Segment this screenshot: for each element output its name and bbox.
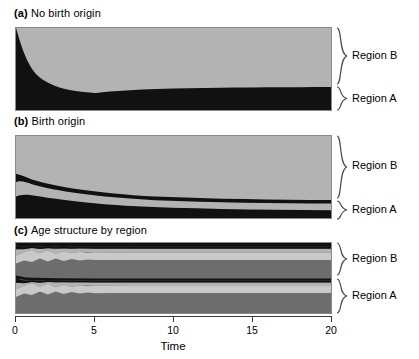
panel-b-title: (b) Birth origin bbox=[14, 115, 85, 127]
panel-a-caption: No birth origin bbox=[31, 7, 101, 19]
panel-a-label-region-b: Region B bbox=[352, 49, 397, 61]
panel-c-caption: Age structure by region bbox=[31, 224, 147, 236]
panel-c-brace-region-b bbox=[336, 242, 348, 276]
panel-b-areas bbox=[16, 136, 331, 218]
x-tick-10 bbox=[173, 317, 174, 322]
x-tick-label-10: 10 bbox=[167, 324, 179, 336]
x-tick-0 bbox=[15, 317, 16, 322]
x-tick-label-20: 20 bbox=[325, 324, 337, 336]
brace-shape bbox=[336, 86, 348, 111]
panel-c-areas bbox=[16, 243, 331, 313]
x-tick-label-5: 5 bbox=[91, 324, 97, 336]
x-tick-15 bbox=[252, 317, 253, 322]
panel-b-label-region-b: Region B bbox=[352, 159, 397, 171]
panel-b-plot bbox=[15, 135, 332, 219]
panel-a-title: (a) No birth origin bbox=[14, 7, 101, 19]
panel-c-label-region-a: Region A bbox=[352, 289, 397, 301]
x-tick-label-0: 0 bbox=[12, 324, 18, 336]
x-tick-label-15: 15 bbox=[246, 324, 258, 336]
panel-b-letter: (b) bbox=[14, 115, 32, 127]
panel-a-areas bbox=[16, 28, 331, 110]
panel-b-caption: Birth origin bbox=[32, 115, 86, 127]
panel-c-title: (c) Age structure by region bbox=[14, 224, 147, 236]
x-tick-5 bbox=[94, 317, 95, 322]
panel-a-plot bbox=[15, 27, 332, 111]
panel-c-label-region-b: Region B bbox=[352, 252, 397, 264]
panel-b-brace-region-b bbox=[336, 135, 348, 199]
panel-a-brace-region-a bbox=[336, 86, 348, 111]
panel-b-label-region-a: Region A bbox=[352, 203, 397, 215]
brace-shape bbox=[336, 242, 348, 276]
panel-a-letter: (a) bbox=[14, 7, 31, 19]
brace-shape bbox=[336, 135, 348, 199]
panel-b-brace-region-a bbox=[336, 200, 348, 220]
panel-a-label-region-a: Region A bbox=[352, 92, 397, 104]
brace-shape bbox=[336, 200, 348, 220]
panel-c-letter: (c) bbox=[14, 224, 31, 236]
panel-c-plot bbox=[15, 242, 332, 314]
brace-shape bbox=[336, 278, 348, 314]
brace-shape bbox=[336, 27, 348, 85]
figure-panel-group: (a) No birth origin Region B Region A (b… bbox=[0, 0, 419, 359]
panel-c-brace-region-a bbox=[336, 278, 348, 314]
x-tick-20 bbox=[331, 317, 332, 322]
x-axis-title: Time bbox=[160, 340, 185, 352]
panel-a-brace-region-b bbox=[336, 27, 348, 85]
